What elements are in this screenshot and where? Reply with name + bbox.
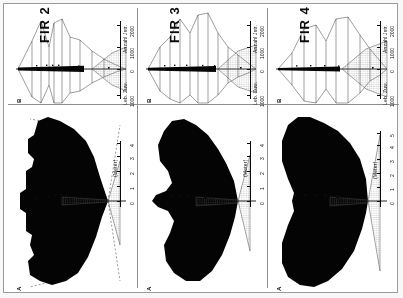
panel-b-fir2-tick-2000: 2000 [130,26,135,37]
panel-b-fir4-tick-2000: 2000 [390,26,395,37]
figure-row-fir3: 0 1000 2000 1000 Anzahl Jstr. Leb. Zuw. … [138,4,268,292]
panel-a-fir4-tick-3: 3 [390,160,395,163]
panel-b-fir4-tick-0: 0 [390,70,395,73]
panel-b-fir3-tick-1000: 1000 [260,48,265,59]
panel-a-fir4-id: A [276,287,282,291]
panel-a-fir2-tick-0: 0 [130,202,135,205]
panel-b-fir2-right-axis-label: Anzahl Jstr. [123,25,128,53]
panel-a-fir3-tick-4: 4 [260,144,265,147]
panel-b-fir3-tick-2000: 2000 [260,26,265,37]
panel-a-fir3-tick-0: 0 [260,202,265,205]
panel-a-fir2: 0 1 2 3 4 (Meter) A [8,105,138,289]
panel-b-fir2-tick-0: 0 [130,70,135,73]
panel-b-fir3-id: B [146,99,152,103]
panel-a-fir3-tick-1: 1 [260,187,265,190]
panel-b-fir3: 0 1000 2000 1000 Anzahl Jstr. Leb. Zuw. … [138,7,268,105]
panel-a-fir2-axis [120,141,121,207]
panel-b-fir4-left-axis-label: Leb. Zuw. [383,82,388,105]
panel-a-fir2-plot [8,105,138,295]
panel-a-fir4-tick-5: 5 [390,134,395,137]
panel-a-fir3-tick-2: 2 [260,172,265,175]
panel-b-fir4: 0 1000 2000 1000 Anzahl Jstr. Leb. Zuw. … [268,7,399,105]
panel-a-fir4-axis-label: (Meter) [373,161,378,179]
panel-b-fir3-right-axis-label: Anzahl Jstr. [253,25,258,53]
panel-a-fir4: 0 1 2 3 4 5 (Meter) A [268,105,399,289]
panel-b-fir3-plot [138,7,268,105]
panel-b-fir3-tick-0: 0 [260,70,265,73]
panel-a-fir4-tick-1: 1 [390,188,395,191]
panel-a-fir3: 0 1 2 3 4 (Meter) A [138,105,268,289]
panel-b-fir4-right-axis-label: Anzahl Jstr. [383,25,388,53]
panel-b-fir3-left-axis-label: Leb. Zuw. [253,82,258,105]
panel-a-fir2-tick-3: 3 [130,157,135,160]
panel-b-fir2-plot [8,7,138,105]
panel-a-fir3-plot [138,105,268,295]
panel-a-fir3-axis-label: (Meter) [243,159,248,177]
figure-row-fir4: 0 1000 2000 1000 Anzahl Jstr. Leb. Zuw. … [268,4,399,292]
panel-a-fir2-axis-label: (Meter) [113,159,118,177]
panel-b-fir2-tick-1000: 1000 [130,48,135,59]
panel-b-fir4-id: B [276,99,282,103]
panel-a-fir2-tick-4: 4 [130,144,135,147]
figure-row-fir2: 0 1000 2000 1000 Anzahl Jstr. Leb. Zuw. … [8,4,138,292]
figure-plate: 0 1000 2000 1000 Anzahl Jstr. Leb. Zuw. … [0,0,403,298]
panel-a-fir3-axis [250,141,251,207]
panel-b-fir2-left-axis-label: Leb. Zuw. [123,82,128,105]
panel-a-fir3-id: A [146,287,152,291]
panel-a-fir4-axis [380,131,381,207]
panel-a-fir2-tick-1: 1 [130,187,135,190]
panel-b-fir2: 0 1000 2000 1000 Anzahl Jstr. Leb. Zuw. … [8,7,138,105]
panel-b-fir3-axis [250,21,251,99]
panel-b-fir4-axis [380,21,381,99]
panel-a-fir4-tick-2: 2 [390,174,395,177]
panel-title-fir2: FIR 2 [38,6,51,43]
figure-sheet: 0 1000 2000 1000 Anzahl Jstr. Leb. Zuw. … [3,3,398,293]
panel-title-fir4: FIR 4 [298,6,311,43]
panel-a-fir3-tick-3: 3 [260,157,265,160]
panel-a-fir2-tick-2: 2 [130,172,135,175]
panel-a-fir4-tick-4: 4 [390,146,395,149]
panel-a-fir2-id: A [16,287,22,291]
panel-b-fir2-axis [120,21,121,99]
panel-b-fir4-tick-1000: 1000 [390,48,395,59]
panel-b-fir2-id: B [16,99,22,103]
panel-a-fir4-tick-0: 0 [390,202,395,205]
panel-title-fir3: FIR 3 [168,6,181,43]
